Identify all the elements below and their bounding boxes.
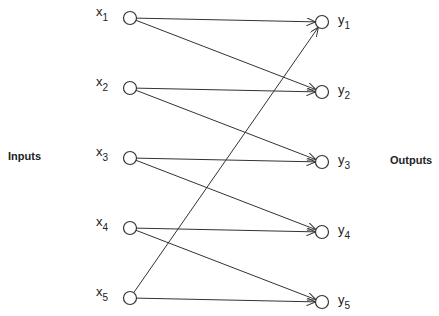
edge-x4-y5	[136, 230, 316, 299]
nodes: x1x2x3x4x5y1y2y3y4y5	[96, 4, 351, 311]
label-y4: y4	[338, 222, 351, 241]
node-y1	[316, 16, 329, 29]
outputs-label: Outputs	[390, 154, 432, 166]
label-y2: y2	[338, 82, 351, 101]
label-x5: x5	[96, 284, 109, 303]
label-y1: y1	[338, 12, 351, 31]
label-y5: y5	[338, 292, 351, 311]
node-x4	[124, 222, 137, 235]
edge-x5-y1	[134, 27, 319, 292]
node-x3	[124, 152, 137, 165]
edge-x3-y4	[136, 160, 316, 229]
node-y4	[316, 226, 329, 239]
edge-x2-y3	[136, 90, 316, 159]
label-x4: x4	[96, 214, 109, 233]
edge-x1-y2	[136, 20, 316, 89]
node-y5	[316, 296, 329, 309]
label-x3: x3	[96, 144, 109, 163]
label-x1: x1	[96, 4, 109, 23]
node-x5	[124, 292, 137, 305]
node-y3	[316, 156, 329, 169]
edge-x5-y5	[136, 298, 315, 302]
inputs-label: Inputs	[8, 150, 41, 162]
bipartite-diagram: x1x2x3x4x5y1y2y3y4y5 Inputs Outputs	[0, 0, 439, 316]
edge-x1-y1	[136, 18, 315, 22]
node-x2	[124, 82, 137, 95]
edges	[134, 18, 319, 302]
label-y3: y3	[338, 152, 351, 171]
edge-x2-y2	[136, 88, 315, 92]
label-x2: x2	[96, 74, 109, 93]
edge-x4-y4	[136, 228, 315, 232]
node-x1	[124, 12, 137, 25]
node-y2	[316, 86, 329, 99]
